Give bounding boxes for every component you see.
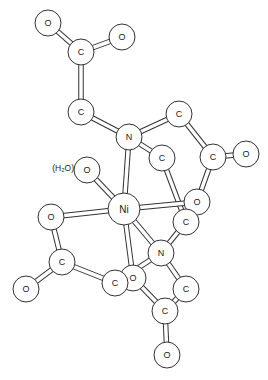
atom-o2: O bbox=[109, 24, 135, 50]
atom-label: Ni bbox=[119, 204, 128, 215]
atom-n1: N bbox=[116, 124, 142, 150]
atom-c3: C bbox=[166, 101, 192, 127]
atom-c5: C bbox=[200, 144, 226, 170]
atom-label: N bbox=[158, 248, 165, 258]
atom-label: O bbox=[22, 284, 29, 294]
atom-c1: C bbox=[68, 39, 94, 65]
atom-o1: O bbox=[35, 10, 61, 36]
atom-label: O bbox=[118, 32, 125, 42]
atom-c8: C bbox=[102, 270, 128, 296]
atom-label: O bbox=[44, 18, 51, 28]
atom-label: O bbox=[83, 165, 90, 175]
bond-layer bbox=[26, 23, 246, 355]
water-label: (H₂O) bbox=[52, 163, 74, 173]
atom-label: O bbox=[242, 149, 249, 159]
atom-label: C bbox=[210, 152, 217, 162]
atom-ni: Ni bbox=[108, 193, 140, 225]
annotation-layer: (H₂O) bbox=[52, 163, 74, 173]
atom-c2: C bbox=[68, 99, 94, 125]
atom-label: C bbox=[78, 107, 85, 117]
atom-layer: OOCCCNCCOONiOCONCOCCOCO bbox=[13, 10, 259, 368]
atom-n2: N bbox=[148, 240, 174, 266]
atom-label: C bbox=[159, 153, 166, 163]
atom-label: N bbox=[126, 132, 133, 142]
atom-o3: O bbox=[233, 141, 259, 167]
atom-label: C bbox=[183, 217, 190, 227]
atom-label: C bbox=[183, 284, 190, 294]
atom-c6: C bbox=[173, 209, 199, 235]
atom-o7: O bbox=[13, 276, 39, 302]
atom-label: O bbox=[47, 212, 54, 222]
atom-c7: C bbox=[49, 249, 75, 275]
atom-c4: C bbox=[149, 145, 175, 171]
atom-o5: O bbox=[38, 204, 64, 230]
atom-label: O bbox=[129, 273, 136, 283]
atom-label: C bbox=[162, 306, 169, 316]
atom-label: C bbox=[112, 278, 119, 288]
atom-ow: O bbox=[74, 157, 100, 183]
atom-label: O bbox=[193, 197, 200, 207]
atom-label: C bbox=[176, 109, 183, 119]
atom-label: C bbox=[59, 257, 66, 267]
atom-c9: C bbox=[173, 276, 199, 302]
atom-label: O bbox=[163, 350, 170, 360]
nickel-complex-diagram: OOCCCNCCOONiOCONCOCCOCO (H₂O) bbox=[0, 0, 268, 380]
atom-c10: C bbox=[152, 298, 178, 324]
atom-label: C bbox=[78, 47, 85, 57]
atom-o8: O bbox=[154, 342, 180, 368]
